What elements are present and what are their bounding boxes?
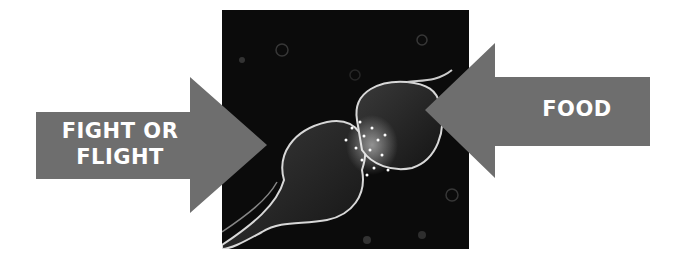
fight-or-flight-line1: FIGHT OR bbox=[36, 118, 204, 144]
fight-or-flight-line2: FLIGHT bbox=[36, 144, 204, 170]
food-label: FOOD bbox=[522, 96, 632, 122]
fight-or-flight-label: FIGHT OR FLIGHT bbox=[36, 118, 204, 170]
